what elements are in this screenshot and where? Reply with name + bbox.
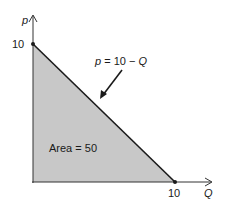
curve-label: p = 10 − Q <box>94 55 147 67</box>
y-intercept-label: 10 <box>12 38 24 50</box>
curve-label-eq: = 10 − <box>101 55 138 67</box>
curve-label-q: Q <box>138 55 147 67</box>
x-intercept-point <box>173 180 177 184</box>
area-label: Area = 50 <box>49 142 97 154</box>
x-intercept-label: 10 <box>168 187 180 199</box>
y-axis-label: p <box>21 14 28 26</box>
x-axis-label: Q <box>204 187 213 199</box>
y-intercept-point <box>31 42 35 46</box>
pointer-arrow <box>103 70 122 95</box>
curve-label-var: p <box>94 55 101 67</box>
demand-diagram: p 10 10 Q p = 10 − Q Area = 50 <box>0 0 227 206</box>
